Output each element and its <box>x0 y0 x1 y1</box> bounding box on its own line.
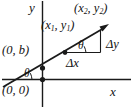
y-intercept-label: (0, b) <box>2 44 29 57</box>
theta-upper-arc <box>84 46 86 52</box>
point-x1-y1-dot <box>63 50 68 55</box>
y-axis-label: y <box>29 1 35 14</box>
slope-diagram-figure: (x2, y2) (x1, y1) (0, b) (0, 0) Δy Δx θ … <box>0 0 133 109</box>
theta-upper-label: θ <box>78 40 84 52</box>
theta-lower-label: θ <box>24 68 30 80</box>
sloped-line <box>3 28 104 87</box>
x-axis-label: x <box>110 85 116 98</box>
delta-y-label: Δy <box>106 38 119 51</box>
origin-label: (0, 0) <box>2 84 29 97</box>
point-x1-y1-label: (x1, y1) <box>41 19 74 32</box>
point-x2-y2-label: (x2, y2) <box>74 2 107 15</box>
point-origin-dot <box>40 77 45 82</box>
point-y-intercept-dot <box>40 65 45 70</box>
theta-lower-arc <box>30 73 32 79</box>
delta-x-label: Δx <box>66 57 79 70</box>
